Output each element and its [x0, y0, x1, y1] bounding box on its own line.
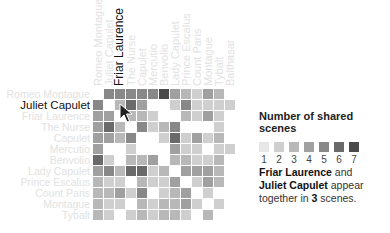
heatmap-cell[interactable]: [192, 122, 202, 132]
heatmap-cell[interactable]: [93, 144, 103, 154]
heatmap-cell[interactable]: [170, 144, 180, 154]
heatmap-cell[interactable]: [126, 166, 136, 176]
heatmap-cell[interactable]: [104, 210, 114, 220]
heatmap-cell[interactable]: [214, 133, 224, 143]
heatmap-cell[interactable]: [115, 166, 125, 176]
heatmap-cell[interactable]: [115, 144, 125, 154]
heatmap-cell[interactable]: [126, 122, 136, 132]
heatmap-cell[interactable]: [225, 155, 235, 165]
heatmap-cell[interactable]: [192, 144, 202, 154]
heatmap-cell[interactable]: [192, 199, 202, 209]
heatmap-cell[interactable]: [104, 199, 114, 209]
heatmap-cell[interactable]: [137, 144, 147, 154]
heatmap-cell[interactable]: [181, 199, 191, 209]
heatmap-cell[interactable]: [126, 177, 136, 187]
heatmap-cell[interactable]: [137, 89, 147, 99]
heatmap-cell[interactable]: [181, 166, 191, 176]
heatmap-cell[interactable]: [115, 188, 125, 198]
heatmap-cell[interactable]: [170, 155, 180, 165]
heatmap-cell[interactable]: [192, 177, 202, 187]
heatmap-cell[interactable]: [170, 100, 180, 110]
heatmap-cell[interactable]: [170, 122, 180, 132]
heatmap-cell[interactable]: [115, 89, 125, 99]
heatmap-cell[interactable]: [115, 122, 125, 132]
heatmap-cell[interactable]: [214, 155, 224, 165]
heatmap-cell[interactable]: [137, 155, 147, 165]
heatmap-cell[interactable]: [225, 166, 235, 176]
heatmap-cell[interactable]: [192, 210, 202, 220]
heatmap-cell[interactable]: [148, 199, 158, 209]
heatmap-cell[interactable]: [126, 210, 136, 220]
heatmap-cell[interactable]: [104, 177, 114, 187]
heatmap-cell[interactable]: [137, 133, 147, 143]
heatmap-cell[interactable]: [93, 122, 103, 132]
heatmap-cell[interactable]: [148, 122, 158, 132]
heatmap-cell[interactable]: [104, 155, 114, 165]
heatmap-cell[interactable]: [214, 188, 224, 198]
heatmap-cell[interactable]: [104, 133, 114, 143]
heatmap-cell[interactable]: [181, 155, 191, 165]
heatmap-cell[interactable]: [159, 144, 169, 154]
heatmap-cell[interactable]: [148, 111, 158, 121]
heatmap-cell[interactable]: [137, 188, 147, 198]
heatmap-cell[interactable]: [214, 122, 224, 132]
heatmap-cell[interactable]: [93, 155, 103, 165]
heatmap-cell[interactable]: [225, 199, 235, 209]
heatmap-cell[interactable]: [126, 144, 136, 154]
heatmap-cell[interactable]: [225, 188, 235, 198]
heatmap-cell[interactable]: [203, 188, 213, 198]
heatmap-cell[interactable]: [181, 177, 191, 187]
heatmap-cell[interactable]: [214, 144, 224, 154]
heatmap-cell[interactable]: [93, 133, 103, 143]
heatmap-cell[interactable]: [214, 199, 224, 209]
heatmap-cell[interactable]: [159, 199, 169, 209]
heatmap-cell[interactable]: [181, 111, 191, 121]
heatmap-cell[interactable]: [159, 166, 169, 176]
heatmap-cell[interactable]: [148, 188, 158, 198]
heatmap-cell[interactable]: [181, 144, 191, 154]
heatmap-cell[interactable]: [93, 199, 103, 209]
heatmap-cell[interactable]: [203, 210, 213, 220]
heatmap-cell[interactable]: [148, 177, 158, 187]
heatmap-cell[interactable]: [225, 89, 235, 99]
heatmap-cell[interactable]: [192, 166, 202, 176]
heatmap-cell[interactable]: [137, 122, 147, 132]
heatmap-cell[interactable]: [93, 177, 103, 187]
heatmap-cell[interactable]: [126, 199, 136, 209]
heatmap-cell[interactable]: [148, 133, 158, 143]
heatmap-cell[interactable]: [170, 111, 180, 121]
heatmap-cell[interactable]: [115, 177, 125, 187]
heatmap-cell[interactable]: [214, 111, 224, 121]
heatmap-cell[interactable]: [93, 188, 103, 198]
heatmap-cell[interactable]: [159, 89, 169, 99]
heatmap-cell[interactable]: [93, 89, 103, 99]
heatmap-cell[interactable]: [203, 199, 213, 209]
heatmap-cell[interactable]: [137, 100, 147, 110]
heatmap-cell[interactable]: [170, 89, 180, 99]
heatmap-cell[interactable]: [93, 100, 103, 110]
heatmap-cell[interactable]: [203, 155, 213, 165]
heatmap-cell[interactable]: [203, 166, 213, 176]
heatmap-cell[interactable]: [115, 199, 125, 209]
heatmap-cell[interactable]: [115, 210, 125, 220]
heatmap-cell[interactable]: [192, 111, 202, 121]
heatmap-cell[interactable]: [214, 100, 224, 110]
heatmap-cell[interactable]: [170, 188, 180, 198]
heatmap-cell[interactable]: [170, 166, 180, 176]
heatmap-cell[interactable]: [126, 155, 136, 165]
heatmap-cell[interactable]: [181, 188, 191, 198]
heatmap-cell[interactable]: [148, 89, 158, 99]
heatmap-cell[interactable]: [181, 210, 191, 220]
heatmap-cell[interactable]: [137, 111, 147, 121]
heatmap-cell[interactable]: [159, 188, 169, 198]
heatmap-cell[interactable]: [137, 210, 147, 220]
heatmap-cell[interactable]: [214, 177, 224, 187]
heatmap-cell[interactable]: [203, 177, 213, 187]
heatmap-cell[interactable]: [148, 144, 158, 154]
heatmap-cell[interactable]: [104, 89, 114, 99]
heatmap-cell[interactable]: [104, 100, 114, 110]
heatmap-cell[interactable]: [115, 133, 125, 143]
heatmap-cell[interactable]: [159, 111, 169, 121]
heatmap-cell[interactable]: [203, 133, 213, 143]
heatmap-cell[interactable]: [192, 89, 202, 99]
